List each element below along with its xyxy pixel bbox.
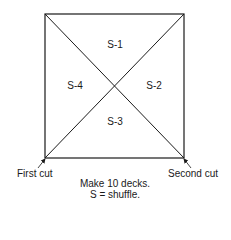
section-label-s3: S-3 [107, 117, 123, 127]
caption-line-2: S = shuffle. [80, 189, 150, 200]
section-label-s4: S-4 [67, 81, 83, 91]
second-cut-arrow-icon [184, 159, 191, 168]
first-cut-label: First cut [17, 169, 53, 179]
section-label-s1: S-1 [107, 40, 123, 50]
second-cut-label: Second cut [168, 169, 218, 179]
section-label-s2: S-2 [146, 81, 162, 91]
caption: Make 10 decks. S = shuffle. [80, 178, 150, 200]
first-cut-arrow-icon [38, 159, 45, 168]
caption-line-1: Make 10 decks. [80, 178, 150, 189]
